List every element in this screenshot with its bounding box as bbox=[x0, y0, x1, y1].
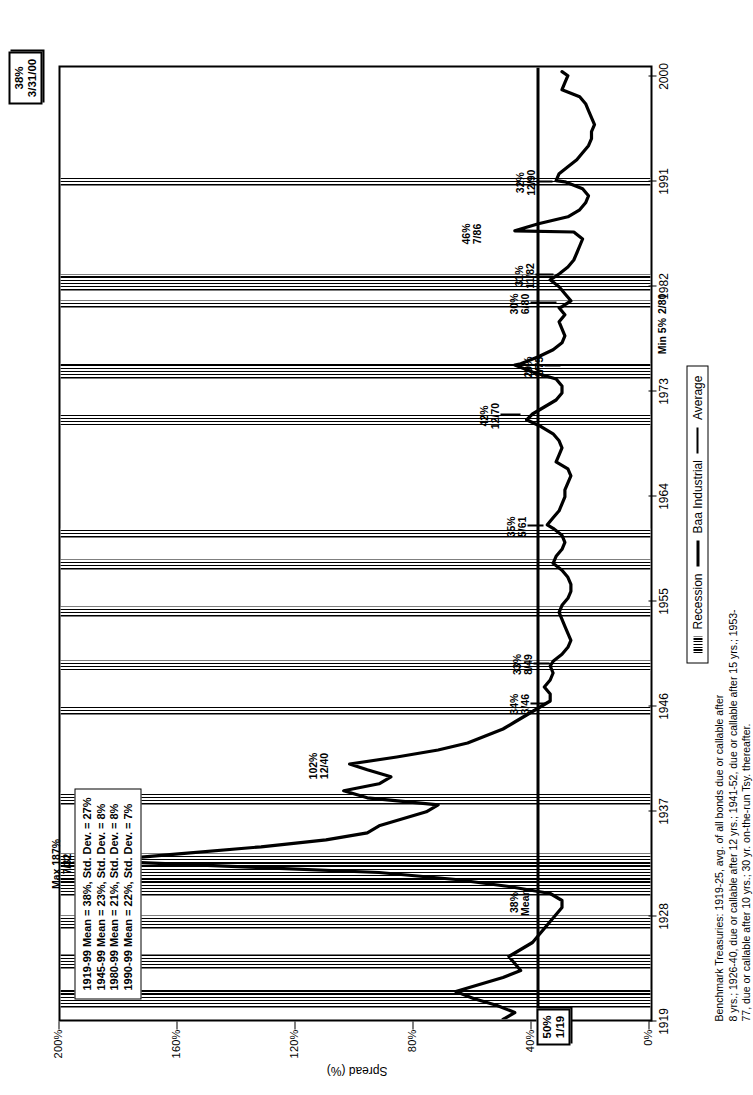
annotation-date: 8/49 bbox=[522, 636, 533, 692]
chart-annotation: 33%8/49 bbox=[511, 636, 533, 692]
mean-marker: 38% Mean bbox=[508, 880, 530, 924]
chart-annotation: 46%7/86 bbox=[460, 206, 482, 262]
stats-line: 1945-99 Mean = 23%, Std. Dev. = 8% bbox=[94, 797, 108, 990]
legend-label-average: Average bbox=[690, 375, 704, 419]
end-date: 3/31/00 bbox=[25, 58, 37, 96]
x-axis-tick-label: 2000 bbox=[656, 46, 670, 106]
annotation-date: 2/75 bbox=[533, 339, 544, 395]
footnote-line-2: 8 yrs.; 1926-40, due or callable after 1… bbox=[726, 401, 740, 1021]
annotation-value: 29% bbox=[521, 356, 533, 377]
chart-annotation: 102%12/40 bbox=[307, 738, 329, 794]
annotation-value: Min 5% bbox=[655, 318, 667, 354]
start-value-box: 50% 1/19 bbox=[536, 1008, 570, 1045]
chart-annotation: 29%2/75 bbox=[522, 339, 544, 395]
annotation-value: 34% bbox=[507, 693, 519, 714]
y-axis-tick bbox=[648, 1021, 649, 1029]
chart-annotation: 31%11/82 bbox=[513, 248, 535, 304]
y-axis-tick-label: 160% bbox=[169, 1029, 181, 1089]
chart-annotation: Max 187%7/32 bbox=[50, 836, 72, 892]
mean-value: 38% bbox=[507, 892, 519, 913]
average-swatch-icon bbox=[696, 427, 698, 453]
y-axis-tick-label: 40% bbox=[523, 1029, 535, 1089]
annotation-leader-line bbox=[500, 414, 520, 416]
legend-label-recession: Recession bbox=[690, 573, 704, 629]
start-date: 1/19 bbox=[553, 1015, 565, 1037]
stats-line: 1919-99 Mean = 38%, Std. Dev. = 27% bbox=[80, 797, 94, 990]
annotation-date: 12/70 bbox=[489, 388, 500, 444]
x-axis-tick-label: 1964 bbox=[656, 466, 670, 526]
annotation-date: 2/80 bbox=[655, 293, 667, 313]
y-axis-tick-label: 0% bbox=[641, 1029, 653, 1089]
annotation-leader-line bbox=[527, 524, 543, 526]
y-axis-tick bbox=[530, 1021, 531, 1029]
annotation-value: 102% bbox=[306, 752, 318, 779]
x-axis-tick-label: 1919 bbox=[656, 991, 670, 1051]
stats-line: 1990-99 Mean = 22%, Std. Dev. = 7% bbox=[121, 797, 135, 990]
x-axis-tick-label: 1973 bbox=[656, 361, 670, 421]
y-axis-tick bbox=[176, 1021, 177, 1029]
chart-annotation: Min 5%2/80 bbox=[656, 280, 667, 354]
statistics-box: 1919-99 Mean = 38%, Std. Dev. = 27% 1945… bbox=[74, 788, 141, 999]
annotation-leader-line bbox=[535, 274, 553, 276]
annotation-value: 33% bbox=[510, 654, 522, 675]
annotation-date: 11/82 bbox=[524, 248, 535, 304]
end-value: 38% bbox=[12, 66, 24, 89]
y-axis-tick bbox=[412, 1021, 413, 1029]
annotation-date: 12/90 bbox=[525, 154, 536, 210]
annotation-value: 32% bbox=[513, 172, 525, 193]
x-axis-tick bbox=[648, 495, 656, 496]
recession-swatch-icon bbox=[693, 636, 702, 653]
x-axis-tick bbox=[648, 810, 656, 811]
annotation-leader-line bbox=[530, 702, 546, 704]
legend: Recession Baa Industrial Average bbox=[686, 365, 708, 663]
x-axis-tick-label: 1928 bbox=[656, 886, 670, 946]
y-axis-tick bbox=[58, 1021, 59, 1029]
x-axis-tick bbox=[648, 390, 656, 391]
annotation-leader-line bbox=[544, 365, 560, 367]
end-value-box: 38% 3/31/00 bbox=[8, 51, 42, 103]
x-axis-tick-label: 1937 bbox=[656, 781, 670, 841]
y-axis-tick bbox=[294, 1021, 295, 1029]
x-axis-tick-label: 1955 bbox=[656, 571, 670, 631]
x-axis-tick bbox=[648, 1020, 656, 1021]
annotation-value: 42% bbox=[477, 405, 489, 426]
annotation-value: 46% bbox=[459, 223, 471, 244]
y-axis-tick-label: 200% bbox=[51, 1029, 63, 1089]
x-axis-tick bbox=[648, 600, 656, 601]
stats-line: 1980-99 Mean = 21%, Std. Dev. = 8% bbox=[107, 797, 121, 990]
x-axis-tick bbox=[648, 705, 656, 706]
x-axis-tick-label: 1946 bbox=[656, 676, 670, 736]
start-value: 50% bbox=[540, 1015, 552, 1038]
footnote-line-3: 77, due or callable after 10 yrs.; 30 yr… bbox=[739, 401, 753, 1021]
x-axis-tick bbox=[648, 915, 656, 916]
x-axis-tick bbox=[648, 285, 656, 286]
footnote-line-1: Benchmark Treasuries: 1919-25, avg. of a… bbox=[712, 401, 726, 1021]
chart-annotation: 42%12/70 bbox=[478, 388, 500, 444]
y-axis-tick-label: 80% bbox=[405, 1029, 417, 1089]
y-axis-title: Spread (%) bbox=[326, 1063, 387, 1077]
x-axis-tick bbox=[648, 180, 656, 181]
annotation-value: 35% bbox=[504, 516, 516, 537]
annotation-value: Max 187% bbox=[49, 838, 61, 888]
x-axis-tick bbox=[648, 75, 656, 76]
annotation-date: 7/32 bbox=[61, 836, 72, 892]
x-axis-tick-label: 1991 bbox=[656, 151, 670, 211]
legend-label-baa: Baa Industrial bbox=[690, 460, 704, 533]
mean-label: Mean bbox=[519, 880, 530, 924]
footnote: Benchmark Treasuries: 1919-25, avg. of a… bbox=[712, 401, 753, 1021]
annotation-date: 7/86 bbox=[471, 206, 482, 262]
annotation-leader-line bbox=[536, 180, 552, 182]
annotation-value: 31% bbox=[512, 265, 524, 286]
y-axis-tick-label: 120% bbox=[287, 1029, 299, 1089]
chart-annotation: 35%5/61 bbox=[505, 498, 527, 554]
baa-industrial-series bbox=[60, 67, 650, 1019]
plot-area bbox=[58, 65, 652, 1021]
annotation-date: 5/61 bbox=[516, 498, 527, 554]
annotation-date: 12/40 bbox=[318, 738, 329, 794]
chart-annotation: 32%12/90 bbox=[514, 154, 536, 210]
baa-industrial-swatch-icon bbox=[696, 540, 699, 566]
annotation-leader-line bbox=[533, 662, 549, 664]
